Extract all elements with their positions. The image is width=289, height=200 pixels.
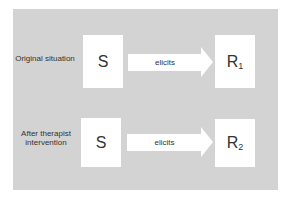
- response-label-2: R2: [227, 134, 244, 152]
- relation-label-2: elicits: [154, 138, 174, 147]
- stimulus-box-2: S: [81, 118, 121, 167]
- elicits-arrow-1: elicits: [128, 47, 214, 77]
- response-box-1: R1: [215, 35, 255, 88]
- arrow-head-icon: [201, 127, 213, 157]
- elicits-arrow-2: elicits: [127, 127, 214, 157]
- arrow-head-icon: [201, 47, 213, 77]
- relation-label-1: elicits: [155, 58, 175, 67]
- response-label-1: R1: [227, 53, 244, 71]
- arrow-body-1: elicits: [128, 54, 202, 71]
- stimulus-label-2: S: [96, 134, 107, 152]
- arrow-body-2: elicits: [127, 134, 202, 151]
- stimulus-box-1: S: [83, 35, 123, 88]
- row-label-after: After therapist intervention: [16, 129, 76, 147]
- stimulus-label-1: S: [98, 53, 109, 71]
- row-label-original: Original situation: [15, 54, 75, 63]
- response-box-2: R2: [215, 119, 255, 167]
